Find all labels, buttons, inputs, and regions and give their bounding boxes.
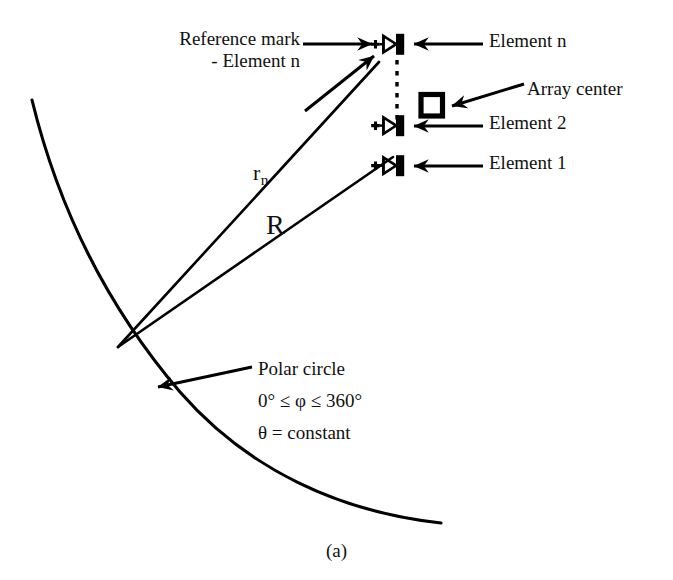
element-1-label: Element 1 — [489, 152, 567, 174]
distance-R-label: R — [266, 208, 285, 241]
reference-mark-label: Reference mark- Element n — [135, 28, 300, 73]
antenna-element-n — [371, 34, 404, 55]
distance-rn-base: r — [253, 160, 260, 185]
figure-container: Reference mark- Element n Element n Arra… — [0, 0, 673, 580]
arrow-to-polar-circle — [158, 367, 252, 387]
element-n-label: Element n — [489, 30, 567, 52]
reference-mark-line1: Reference mark — [179, 28, 300, 49]
antenna-element-1 — [371, 155, 404, 176]
theta-constant-label: θ = constant — [258, 422, 351, 444]
ray-rn — [118, 62, 379, 347]
reference-mark-line2: - Element n — [211, 50, 300, 71]
polar-circle-label: Polar circle — [258, 358, 345, 380]
array-center-marker — [421, 95, 443, 117]
arrow-to-array-center — [452, 84, 524, 106]
polar-circle-arc — [32, 100, 441, 523]
array-center-label: Array center — [527, 78, 622, 100]
antenna-element-2 — [371, 115, 404, 136]
phi-range-label: 0° ≤ φ ≤ 360° — [258, 390, 362, 412]
element-2-label: Element 2 — [489, 112, 567, 134]
figure-caption: (a) — [0, 540, 673, 562]
distance-rn-label: rn — [253, 160, 269, 189]
arrow-to-reference-mark-diagonal — [305, 56, 374, 111]
distance-rn-subscript: n — [261, 171, 269, 188]
